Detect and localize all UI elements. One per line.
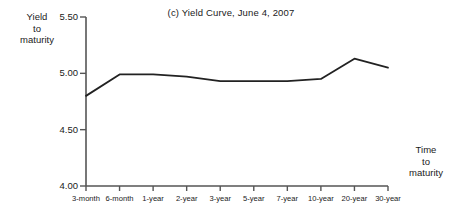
axis-lines <box>86 17 388 186</box>
yield-curve-line <box>86 59 388 96</box>
tick-marks <box>80 17 388 191</box>
plot-area <box>0 0 462 219</box>
yield-curve-figure: (c) Yield Curve, June 4, 2007 Yield to m… <box>0 0 462 219</box>
